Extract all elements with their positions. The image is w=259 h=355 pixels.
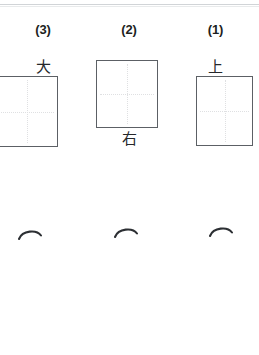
guide-line-horizontal — [200, 111, 249, 112]
stroke-fragment-mark-3 — [17, 227, 43, 241]
guide-line-horizontal — [100, 94, 154, 95]
stroke-fragment-mark-1 — [208, 224, 234, 238]
guide-line-horizontal — [0, 112, 54, 113]
kanji-prompt-dai: 大 — [0, 58, 86, 76]
kanji-prompt-migi: 右 — [86, 130, 172, 148]
exercise-number-2: (2) — [86, 22, 172, 38]
exercise-number-3: (3) — [0, 22, 86, 38]
writing-box-1[interactable] — [196, 76, 253, 146]
exercise-number-1: (1) — [172, 22, 259, 38]
writing-box-3[interactable] — [0, 76, 58, 147]
stroke-fragment-mark-2 — [113, 225, 139, 239]
kanji-prompt-ue: 上 — [172, 58, 259, 76]
writing-box-2[interactable] — [96, 60, 158, 128]
worksheet-page: (3) 大 (2) 右 (1) 上 — [0, 0, 259, 355]
